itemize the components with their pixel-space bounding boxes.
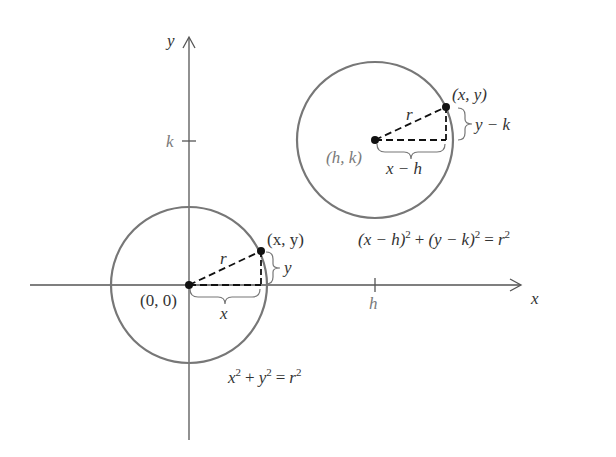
horizontal-brace <box>190 289 260 304</box>
center-point-hk <box>371 136 379 144</box>
origin-label: (0, 0) <box>140 291 177 310</box>
origin-radius-label: r <box>220 249 227 268</box>
y-tick-label-k: k <box>166 132 174 151</box>
x-axis-label: x <box>530 289 539 308</box>
x-tick-label-h: h <box>369 294 378 313</box>
shifted-horizontal-brace <box>377 144 445 159</box>
origin-point <box>185 281 193 289</box>
origin-circle-equation: x2+y2=r2 <box>227 366 301 387</box>
shifted-circle-point-label: (x, y) <box>452 85 487 104</box>
origin-vertical-leg-label: y <box>282 258 292 277</box>
shifted-circle-point <box>442 103 450 111</box>
vertical-brace <box>266 252 280 284</box>
shifted-vertical-leg-label: y − k <box>473 115 511 134</box>
shifted-horizontal-leg-label: x − h <box>385 159 422 178</box>
origin-circle-point-label: (x, y) <box>267 230 304 249</box>
center-label-hk: (h, k) <box>326 148 362 167</box>
origin-horizontal-leg-label: x <box>219 304 228 323</box>
circle-equation-diagram: x y k h (0, 0) (x, y) r x y x2+y2=r2 (h,… <box>0 0 616 457</box>
shifted-vertical-brace <box>458 108 472 140</box>
shifted-radius-label: r <box>406 105 413 124</box>
shifted-circle-group <box>297 62 472 218</box>
shifted-circle-equation: (x − h)2+(y − k)2=r2 <box>358 228 510 249</box>
y-axis-label: y <box>165 31 175 50</box>
circle-point <box>257 247 265 255</box>
